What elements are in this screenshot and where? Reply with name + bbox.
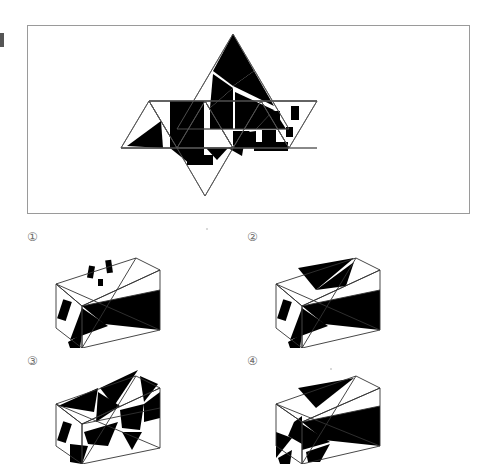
option-1-figure [48, 246, 168, 348]
option-3-label: ③ [27, 355, 38, 367]
net-figure [28, 26, 469, 213]
option-2[interactable]: ② [244, 228, 464, 348]
paper-speck [206, 228, 208, 230]
option-2-label: ② [247, 231, 258, 243]
page-edge-artifact [0, 33, 4, 47]
option-3-figure [48, 366, 168, 464]
net-panel [27, 25, 470, 214]
paper-speck [330, 368, 332, 370]
option-2-figure [268, 246, 388, 348]
option-1-label: ① [27, 231, 38, 243]
option-4-figure [268, 366, 388, 464]
option-4-label: ④ [247, 355, 258, 367]
option-1[interactable]: ① [24, 228, 244, 348]
option-3[interactable]: ③ [24, 352, 244, 462]
option-4[interactable]: ④ [244, 352, 464, 462]
